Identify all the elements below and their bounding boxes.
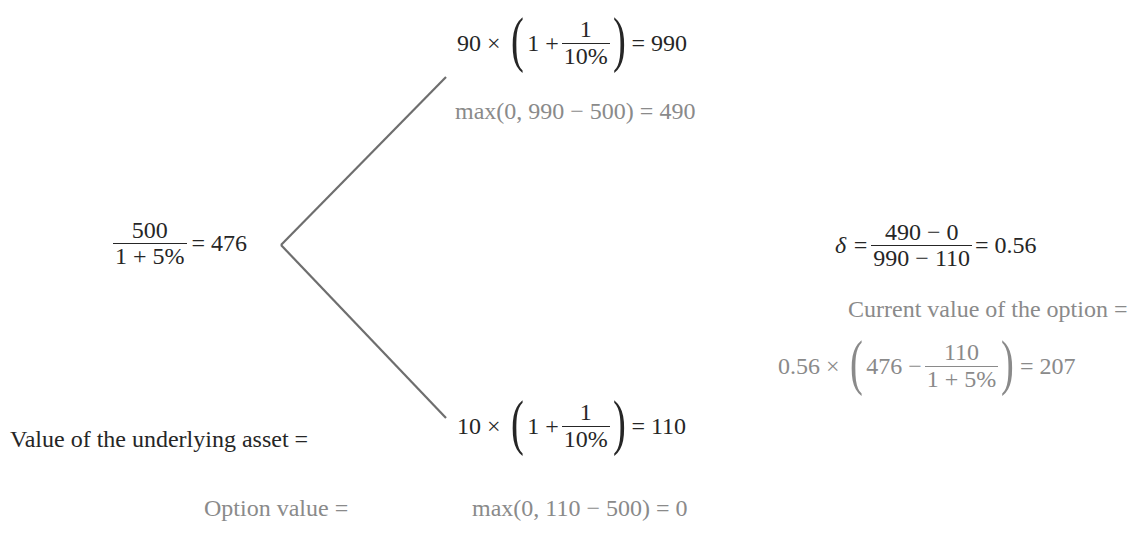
down-fraction: 1 10% <box>562 400 610 451</box>
up-factor: 90 × <box>457 30 501 57</box>
down-branch-line <box>281 245 446 418</box>
left-paren: ( <box>849 331 862 393</box>
right-paren: ) <box>613 391 626 453</box>
root-fraction: 500 1 + 5% <box>113 218 187 269</box>
down-frac-den: 10% <box>562 426 610 452</box>
current-frac-den: 1 + 5% <box>925 366 999 392</box>
underlying-label: Value of the underlying asset = <box>10 426 308 453</box>
down-inner: 1 + <box>527 413 559 440</box>
root-value: = 476 <box>192 230 248 257</box>
down-frac-num: 1 <box>578 400 594 425</box>
delta-symbol: δ = <box>835 232 868 259</box>
down-factor: 10 × <box>457 413 501 440</box>
current-factor: 0.56 × <box>778 353 840 380</box>
right-paren: ) <box>1001 331 1014 393</box>
up-branch-line <box>281 77 446 245</box>
up-fraction: 1 10% <box>562 17 610 68</box>
down-node-option: max(0, 110 − 500) = 0 <box>472 495 687 522</box>
up-frac-num: 1 <box>578 17 594 42</box>
current-value-formula: 0.56 × ( 476 − 110 1 + 5% ) = 207 <box>778 335 1075 397</box>
left-paren: ( <box>510 8 523 70</box>
current-result: = 207 <box>1020 353 1076 380</box>
up-result: = 990 <box>631 30 687 57</box>
root-numerator: 500 <box>130 218 170 243</box>
up-node-asset: 90 × ( 1 + 1 10% ) = 990 <box>457 12 687 74</box>
root-denominator: 1 + 5% <box>113 243 187 269</box>
down-result: = 110 <box>631 413 686 440</box>
current-frac-num: 110 <box>942 340 981 365</box>
root-node: 500 1 + 5% = 476 <box>110 218 247 269</box>
right-paren: ) <box>613 8 626 70</box>
current-inner: 476 − <box>866 353 922 380</box>
up-inner: 1 + <box>527 30 559 57</box>
delta-denominator: 990 − 110 <box>871 245 972 271</box>
current-fraction: 110 1 + 5% <box>925 340 999 391</box>
current-value-label: Current value of the option = <box>848 296 1127 323</box>
delta-formula: δ = 490 − 0 990 − 110 = 0.56 <box>835 220 1037 271</box>
delta-numerator: 490 − 0 <box>883 220 961 245</box>
delta-result: = 0.56 <box>975 232 1037 259</box>
up-frac-den: 10% <box>562 43 610 69</box>
up-node-option: max(0, 990 − 500) = 490 <box>455 98 695 125</box>
option-value-label: Option value = <box>204 495 348 522</box>
left-paren: ( <box>510 391 523 453</box>
down-node-asset: 10 × ( 1 + 1 10% ) = 110 <box>457 395 686 457</box>
delta-fraction: 490 − 0 990 − 110 <box>871 220 972 271</box>
